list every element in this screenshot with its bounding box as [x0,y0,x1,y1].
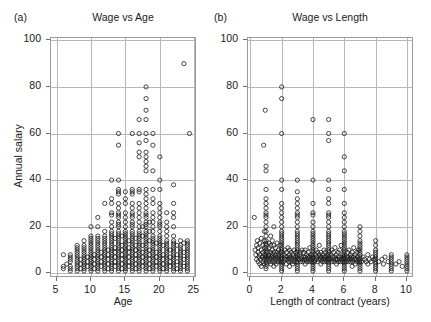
y-tick-label: 100 [1,32,41,44]
scatter-point [352,246,356,250]
scatter-point [158,215,162,219]
panel-b-wage-vs-length: (b) Wage vs Length Length of contract (y… [206,0,431,322]
scatter-point [151,131,155,135]
scatter-point [295,220,299,224]
scatter-point [182,62,186,66]
panel-a-tag: (a) [14,11,27,23]
scatter-point [151,197,155,201]
scatter-point [110,201,114,205]
scatter-point [137,211,141,215]
panel-b-xlabel: Length of contract (years) [247,295,413,307]
scatter-point [144,138,148,142]
scatter-point [137,220,141,224]
scatter-point [264,164,268,168]
scatter-point [144,155,148,159]
scatter-point [116,201,120,205]
y-tick-mark [46,133,50,134]
panel-a-title: Wage vs Age [50,11,196,23]
scatter-point [151,187,155,191]
scatter-point [123,220,127,224]
scatter-point [280,201,284,205]
scatter-point [342,169,346,173]
scatter-point [110,197,114,201]
scatter-point [158,155,162,159]
scatter-point [295,197,299,201]
scatter-point [280,220,284,224]
scatter-point [144,108,148,112]
scatter-point [280,211,284,215]
scatter-point [270,239,274,243]
scatter-point [144,169,148,173]
scatter-point [96,215,100,219]
panel-b-plot-area [247,37,413,277]
scatter-point [171,225,175,229]
x-tick-mark [90,277,91,281]
y-tick-label: 60 [198,126,238,138]
scatter-point [252,215,256,219]
x-tick-mark [56,277,57,281]
scatter-point [144,96,148,100]
scatter-point [165,211,169,215]
scatter-point [116,143,120,147]
scatter-point [158,229,162,233]
scatter-point [366,253,370,257]
scatter-point [381,262,385,266]
y-tick-label: 80 [1,79,41,91]
scatter-point [144,206,148,210]
scatter-point [280,96,284,100]
y-tick-mark [243,133,247,134]
y-tick-mark [46,179,50,180]
scatter-point [158,201,162,205]
scatter-point [311,117,315,121]
scatter-point [280,215,284,219]
scatter-point [158,206,162,210]
scatter-point [144,131,148,135]
scatter-point [151,215,155,219]
x-tick-mark [343,277,344,281]
scatter-point [165,229,169,233]
scatter-point [280,85,284,89]
scatter-point [342,220,346,224]
panel-a-wage-vs-age: (a) Wage vs Age Annual salary Age 020406… [0,0,211,322]
scatter-point [264,187,268,191]
y-tick-mark [243,226,247,227]
scatter-point [110,178,114,182]
scatter-point [342,211,346,215]
y-tick-label: 40 [198,172,238,184]
panel-a-plot-area [50,37,196,277]
x-tick-mark [249,277,250,281]
scatter-point [342,225,346,229]
scatter-point [358,229,362,233]
scatter-point [374,239,378,243]
scatter-point [400,264,404,268]
scatter-point [327,225,331,229]
scatter-point [187,131,191,135]
scatter-point [144,201,148,205]
x-tick-mark [193,277,194,281]
scatter-point [272,225,276,229]
scatter-point [358,234,362,238]
scatter-point [144,150,148,154]
scatter-point [264,234,268,238]
scatter-point [295,206,299,210]
scatter-point [151,201,155,205]
figure-scatterplot-pair: (a) Wage vs Age Annual salary Age 020406… [0,0,431,322]
scatter-point [264,206,268,210]
scatter-point [137,131,141,135]
scatter-point [123,225,127,229]
scatter-point [151,211,155,215]
scatter-point [82,239,86,243]
panel-b-data-points [248,38,412,276]
scatter-point [110,220,114,224]
y-tick-label: 0 [1,265,41,277]
y-tick-mark [46,226,50,227]
scatter-point [327,178,331,182]
scatter-point [171,211,175,215]
y-tick-label: 80 [198,79,238,91]
y-tick-mark [46,39,50,40]
scatter-point [130,131,134,135]
scatter-point [158,187,162,191]
scatter-point [144,192,148,196]
scatter-point [327,138,331,142]
scatter-point [342,155,346,159]
